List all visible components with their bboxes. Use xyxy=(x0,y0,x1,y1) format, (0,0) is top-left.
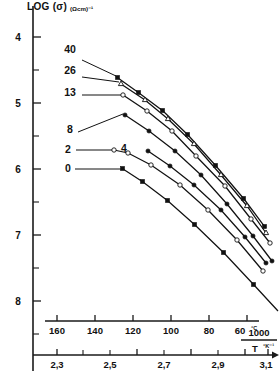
x-axis-inverse-temperature: 2,3 2,5 2,7 2,9 3,1 xyxy=(33,349,279,370)
y-axis-title: LOG (σ) (Ωcm)⁻¹ xyxy=(27,1,93,12)
series-label-0: 0 xyxy=(65,162,71,174)
series-label-13: 13 xyxy=(64,86,76,98)
fraction-denominator: T xyxy=(252,343,258,354)
x-top-tick-label: 140 xyxy=(87,325,103,336)
y-tick-label: 8 xyxy=(15,296,21,307)
series-26 xyxy=(118,81,268,235)
x-bottom-tick-label: 2,7 xyxy=(157,359,170,370)
x-axis-arrow xyxy=(272,352,279,359)
y-tick-label: 4 xyxy=(15,32,21,43)
x-top-tick-label: 100 xyxy=(163,325,179,336)
fraction-numerator: 1000 xyxy=(248,327,269,338)
series-label-8: 8 xyxy=(67,123,73,135)
y-tick-label: 6 xyxy=(15,164,21,175)
x-top-tick-label: 160 xyxy=(49,325,65,336)
x-top-tick-label: 60 xyxy=(235,325,246,336)
series-label-2: 2 xyxy=(65,143,71,155)
y-tick-label: 7 xyxy=(15,230,21,241)
y-axis-tick-labels: 4 5 6 7 8 xyxy=(15,32,21,307)
series-40 xyxy=(116,76,267,229)
series-8 xyxy=(123,113,274,263)
series-label-4: 4 xyxy=(121,142,127,154)
y-tick-label: 5 xyxy=(15,98,21,109)
x-bottom-tick-label: 2,9 xyxy=(211,359,224,370)
x-top-tick-label: 120 xyxy=(125,325,141,336)
label-leader-lines xyxy=(75,60,123,169)
fraction-denominator-unit: °K⁻¹ xyxy=(263,343,274,349)
x-axis-temperature: 160 140 120 100 80 60 °C xyxy=(45,315,259,336)
x-bottom-tick-label: 3,1 xyxy=(259,359,273,370)
y-axis-unit-text: (Ωcm)⁻¹ xyxy=(70,5,93,12)
x-axis-fraction-label: 1000 T °K⁻¹ xyxy=(241,327,277,354)
series-label-26: 26 xyxy=(64,64,76,76)
series-label-40: 40 xyxy=(64,43,76,55)
chart-figure: LOG (σ) (Ωcm)⁻¹ 4 5 6 7 8 xyxy=(0,0,279,375)
y-axis-ticks xyxy=(33,37,41,334)
series-2 xyxy=(112,148,265,273)
x-bottom-tick-label: 2,5 xyxy=(103,359,117,370)
x-top-tick-label: 80 xyxy=(204,325,215,336)
x-bottom-tick-label: 2,3 xyxy=(50,359,63,370)
series-labels: 40 26 13 8 2 4 0 xyxy=(64,43,127,174)
arrhenius-conductivity-plot: LOG (σ) (Ωcm)⁻¹ 4 5 6 7 8 xyxy=(0,0,279,375)
